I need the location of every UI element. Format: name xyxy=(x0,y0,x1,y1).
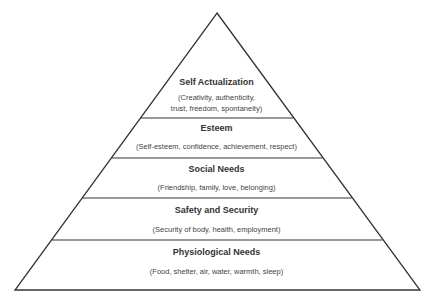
level-desc-self-actualization-line1: (Creativity, authenticity, xyxy=(0,92,433,103)
level-title-self-actualization: Self Actualization xyxy=(0,77,433,87)
level-desc-esteem: (Self-esteem, confidence, achievement, r… xyxy=(0,141,433,152)
level-title-social-needs: Social Needs xyxy=(0,164,433,174)
level-desc-self-actualization-line2: trust, freedom, spontaneity) xyxy=(0,103,433,114)
level-title-physiological-needs: Physiological Needs xyxy=(0,247,433,257)
level-desc-social-needs: (Friendship, family, love, belonging) xyxy=(0,182,433,193)
level-desc-physiological-needs: (Food, shelter, air, water, warmth, slee… xyxy=(0,266,433,277)
level-title-safety-security: Safety and Security xyxy=(0,205,433,215)
level-desc-safety-security: (Security of body, health, employment) xyxy=(0,224,433,235)
level-title-esteem: Esteem xyxy=(0,123,433,133)
